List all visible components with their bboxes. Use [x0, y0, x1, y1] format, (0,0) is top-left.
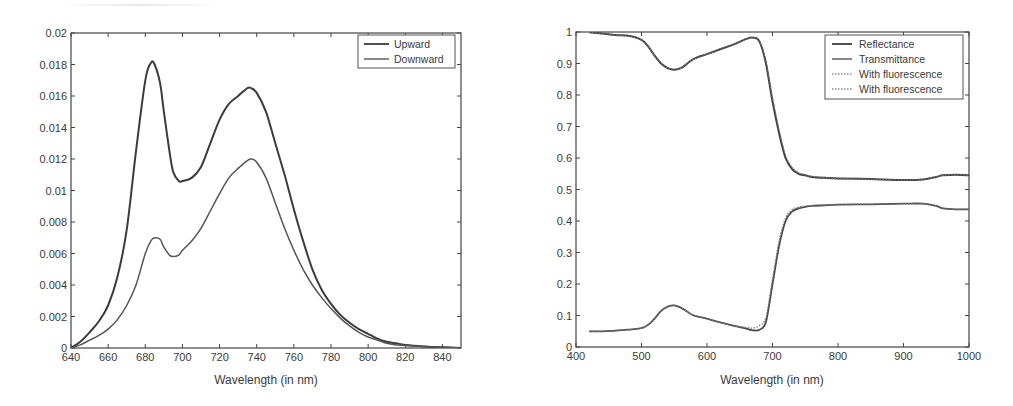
legend-reflectance: Reflectance: [859, 38, 915, 50]
x-tick-label: 900: [894, 350, 912, 362]
y-tick-label: 0.4: [557, 215, 572, 227]
y-tick-label: 0.3: [557, 247, 572, 259]
y-tick-label: 0.6: [557, 152, 572, 164]
legend-transmittance: Transmittance: [859, 53, 925, 65]
chart-right-reflectance-transmittance: 400500600700800900100000.10.20.30.40.50.…: [0, 0, 1013, 406]
x-tick-label: 600: [698, 350, 716, 362]
x-tick-label: 800: [829, 350, 847, 362]
right-x-axis-label: Wavelength (in nm): [720, 373, 824, 387]
x-tick-label: 1000: [957, 350, 981, 362]
legend-with-fluorescence-1: With fluorescence: [859, 68, 943, 80]
y-tick-label: 0: [566, 341, 572, 353]
series-line-transmittance: [589, 203, 969, 331]
y-tick-label: 0.5: [557, 184, 572, 196]
y-tick-label: 0.1: [557, 310, 572, 322]
x-tick-label: 700: [763, 350, 781, 362]
x-tick-label: 500: [632, 350, 650, 362]
y-tick-label: 0.9: [557, 58, 572, 70]
y-tick-label: 1: [566, 26, 572, 38]
legend-with-fluorescence-2: With fluorescence: [859, 83, 943, 95]
series-line-with-fluorescence: [589, 203, 969, 331]
y-tick-label: 0.7: [557, 121, 572, 133]
y-tick-label: 0.2: [557, 278, 572, 290]
y-tick-label: 0.8: [557, 89, 572, 101]
right-legend: Reflectance Transmittance With fluoresce…: [825, 35, 963, 99]
